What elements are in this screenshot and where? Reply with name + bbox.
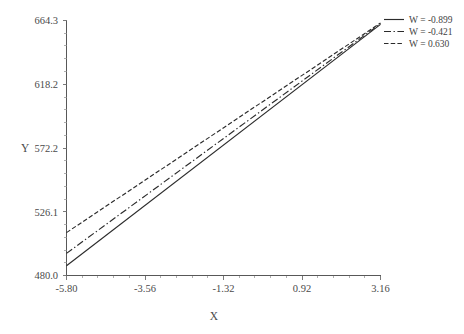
legend-label-2: W = 0.630	[409, 39, 450, 49]
legend-label-1: W = -0.421	[409, 27, 453, 37]
x-tick-label-0: -5.80	[56, 283, 78, 294]
series-group	[67, 23, 381, 266]
series-line-0	[67, 24, 381, 265]
y-tick-label-2: 572.2	[34, 143, 58, 154]
y-tick-label-3: 526.1	[34, 207, 58, 218]
legend-label-0: W = -0.899	[409, 15, 453, 25]
x-tick-label-4: 3.16	[371, 283, 389, 294]
chart-figure: 664.3 618.2 572.2 526.1 480.0 Y -5.80 -3…	[0, 0, 464, 334]
line-chart: 664.3 618.2 572.2 526.1 480.0 Y -5.80 -3…	[0, 0, 464, 334]
y-axis-title: Y	[21, 142, 30, 154]
chart-legend: W = -0.899 W = -0.421 W = 0.630	[384, 15, 453, 49]
y-tick-label-4: 480.0	[34, 270, 58, 281]
series-line-1	[67, 24, 381, 254]
y-tick-label-1: 618.2	[34, 79, 58, 90]
y-tick-label-0: 664.3	[34, 15, 58, 26]
x-tick-label-1: -3.56	[134, 283, 156, 294]
x-axis-title: X	[210, 310, 219, 322]
x-tick-label-3: 0.92	[293, 283, 311, 294]
x-tick-label-2: -1.32	[213, 283, 235, 294]
series-line-2	[67, 23, 381, 233]
